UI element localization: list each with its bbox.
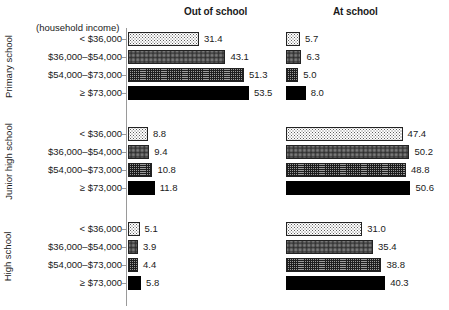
bar-value-high-at-3: 40.3 [390, 276, 409, 290]
category-label: ≥ $73,000 [4, 276, 122, 290]
bar-value-primary-at-3: 8.0 [311, 86, 324, 100]
bar-high-at-0 [286, 222, 362, 236]
axis-tick [122, 93, 126, 94]
bar-primary-out-3 [128, 86, 249, 100]
axis-tick [122, 265, 126, 266]
bar-primary-at-3 [286, 86, 306, 100]
category-label: $36,000–$54,000 [4, 240, 122, 254]
category-label: < $36,000 [4, 127, 122, 141]
vertical-axis-spine [126, 28, 127, 306]
bar-value-junior-out-2: 10.8 [157, 163, 176, 177]
axis-tick [122, 283, 126, 284]
bar-junior-out-0 [128, 127, 148, 141]
bar-value-primary-at-0: 5.7 [305, 32, 318, 46]
category-label: $54,000–$73,000 [4, 163, 122, 177]
bar-junior-at-2 [286, 163, 406, 177]
bar-value-junior-at-3: 50.6 [415, 181, 434, 195]
bar-value-high-out-3: 5.8 [146, 276, 159, 290]
bar-value-primary-out-0: 31.4 [204, 32, 223, 46]
bar-value-primary-at-1: 6.3 [306, 50, 319, 64]
column-header-at-school: At school [333, 6, 378, 17]
bar-value-primary-out-3: 53.5 [254, 86, 273, 100]
bar-value-primary-out-1: 43.1 [230, 50, 249, 64]
bar-value-junior-at-0: 47.4 [408, 127, 427, 141]
axis-tick [122, 152, 126, 153]
bar-value-primary-at-2: 5.0 [303, 68, 316, 82]
bar-junior-out-3 [128, 181, 155, 195]
axis-tick [122, 188, 126, 189]
category-label: $54,000–$73,000 [4, 68, 122, 82]
bar-value-junior-out-1: 9.4 [154, 145, 167, 159]
bar-value-primary-out-2: 51.3 [249, 68, 268, 82]
bar-primary-at-1 [286, 50, 301, 64]
bar-junior-out-2 [128, 163, 152, 177]
bar-high-out-0 [128, 222, 140, 236]
bar-value-high-at-2: 38.8 [386, 258, 405, 272]
category-label: < $36,000 [4, 32, 122, 46]
bar-value-high-at-1: 35.4 [378, 240, 397, 254]
bar-value-high-out-2: 4.4 [143, 258, 156, 272]
category-label: $36,000–$54,000 [4, 145, 122, 159]
category-label: $54,000–$73,000 [4, 258, 122, 272]
bar-high-out-3 [128, 276, 141, 290]
grouped-bar-chart: Out of school At school (household incom… [0, 0, 449, 310]
axis-tick [122, 247, 126, 248]
bar-high-out-2 [128, 258, 138, 272]
axis-tick [122, 75, 126, 76]
bar-junior-at-0 [286, 127, 403, 141]
bar-value-junior-out-3: 11.8 [160, 181, 178, 195]
bar-high-at-1 [286, 240, 373, 254]
bar-junior-at-3 [286, 181, 410, 195]
bar-value-junior-at-2: 48.8 [411, 163, 430, 177]
bar-value-junior-at-1: 50.2 [414, 145, 433, 159]
bar-high-out-1 [128, 240, 138, 254]
axis-tick [122, 39, 126, 40]
bar-primary-at-0 [286, 32, 300, 46]
bar-value-high-at-0: 31.0 [367, 222, 386, 236]
axis-tick [122, 134, 126, 135]
bar-junior-at-1 [286, 145, 409, 159]
axis-tick [122, 57, 126, 58]
bar-primary-out-0 [128, 32, 199, 46]
bar-high-at-2 [286, 258, 381, 272]
bar-primary-out-1 [128, 50, 225, 64]
bar-value-high-out-0: 5.1 [145, 222, 158, 236]
bar-primary-at-2 [286, 68, 298, 82]
category-label: ≥ $73,000 [4, 86, 122, 100]
column-header-out-of-school: Out of school [184, 6, 247, 17]
axis-tick [122, 229, 126, 230]
category-label: < $36,000 [4, 222, 122, 236]
axis-tick [122, 170, 126, 171]
panel-label-text: High school [3, 231, 14, 281]
bar-value-high-out-1: 3.9 [143, 240, 156, 254]
category-label: $36,000–$54,000 [4, 50, 122, 64]
bar-primary-out-2 [128, 68, 244, 82]
bar-value-junior-out-0: 8.8 [153, 127, 166, 141]
category-label: ≥ $73,000 [4, 181, 122, 195]
bar-high-at-3 [286, 276, 385, 290]
bar-junior-out-1 [128, 145, 149, 159]
